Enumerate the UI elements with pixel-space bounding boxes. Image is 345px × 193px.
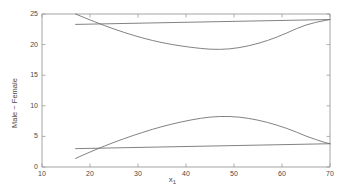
y-tick-label: 25 — [16, 10, 38, 17]
y-tick-label: 0 — [16, 163, 38, 170]
series-upper-curved-band — [76, 14, 330, 49]
axes-lines — [42, 14, 330, 167]
x-axis-label: x1 — [0, 176, 345, 185]
y-tick-label: 10 — [16, 102, 38, 109]
x-axis-label-subscript: 1 — [173, 179, 176, 185]
data-series-group — [76, 14, 330, 158]
series-upper-straight-band — [76, 20, 330, 25]
axis-ticks — [42, 14, 330, 167]
y-tick-label: 15 — [16, 71, 38, 78]
series-lower-curved-band — [76, 117, 330, 159]
y-axis-label: Male − Female — [11, 78, 19, 128]
y-tick-label: 20 — [16, 41, 38, 48]
series-lower-straight-band — [76, 144, 330, 149]
plot-canvas — [0, 0, 345, 193]
y-tick-label: 5 — [16, 132, 38, 139]
figure-container: 0510152025 10203040506070 Male − Female … — [0, 0, 345, 193]
